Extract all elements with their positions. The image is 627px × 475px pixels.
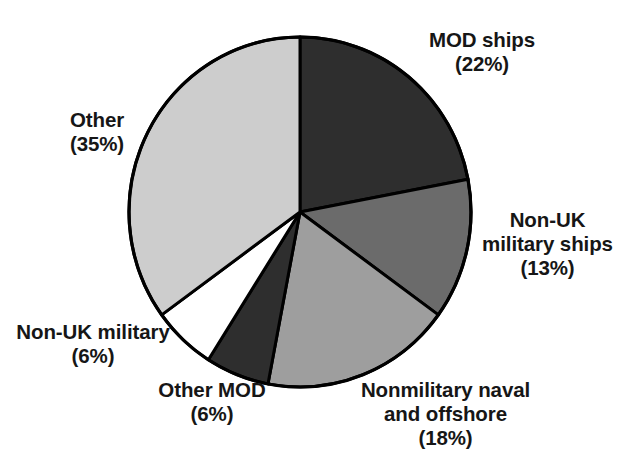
pie-label-nonmilitary-naval-and-offshore: Nonmilitary naval and offshore (18%): [338, 378, 553, 450]
pie-label-mod-ships: MOD ships (22%): [392, 28, 572, 76]
pie-label-nonuk-military: Non-UK military (6%): [2, 320, 184, 368]
pie-chart-figure: MOD ships (22%) Non-UK military ships (1…: [0, 0, 627, 475]
pie-label-other-mod: Other MOD (6%): [128, 378, 296, 426]
pie-label-nonuk-military-ships: Non-UK military ships (13%): [468, 208, 627, 280]
pie-label-other: Other (35%): [36, 108, 158, 156]
